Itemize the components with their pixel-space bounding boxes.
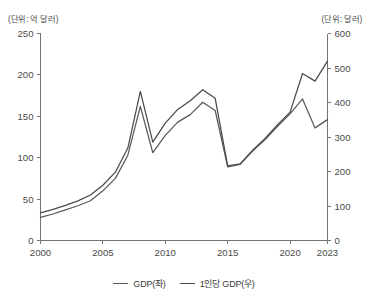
series-line-gdp: [41, 99, 328, 217]
right-axis-tick-label: 600: [335, 28, 351, 39]
x-axis-tick-label: 2010: [155, 247, 176, 258]
x-axis-tick-label: 2023: [317, 247, 338, 258]
left-axis-tick-label: 50: [23, 194, 34, 205]
data-series: [41, 61, 328, 217]
legend-label: GDP(좌): [133, 277, 165, 290]
left-axis-tick-label: 150: [17, 111, 33, 122]
gdp-line-chart: (단위: 억 달러) (단위: 달러) 050100150200250 0100…: [0, 0, 368, 298]
chart-legend: GDP(좌)1인당 GDP(우): [0, 277, 368, 290]
left-axis: 050100150200250: [17, 28, 40, 246]
x-axis-tick-label: 2020: [279, 247, 300, 258]
plot-area: 050100150200250 0100200300400500600 2000…: [0, 0, 368, 298]
left-axis-tick-label: 100: [17, 152, 33, 163]
left-axis-tick-label: 0: [28, 235, 33, 246]
right-axis-tick-label: 100: [335, 201, 351, 212]
right-axis-tick-label: 500: [335, 63, 351, 74]
right-axis-tick-label: 300: [335, 132, 351, 143]
legend-line-icon: [180, 283, 195, 284]
right-axis-tick-label: 0: [335, 235, 340, 246]
x-axis-tick-label: 2005: [92, 247, 113, 258]
x-axis: 200020052010201520202023: [30, 241, 338, 258]
x-axis-tick-label: 2000: [30, 247, 51, 258]
legend-label: 1인당 GDP(우): [200, 277, 255, 290]
left-axis-tick-label: 250: [17, 28, 33, 39]
series-line-gdp-per-capita: [41, 61, 328, 213]
legend-line-icon: [113, 283, 128, 284]
legend-item-1[interactable]: 1인당 GDP(우): [180, 277, 255, 290]
legend-item-0[interactable]: GDP(좌): [113, 277, 165, 290]
x-axis-tick-label: 2015: [217, 247, 238, 258]
left-axis-tick-label: 200: [17, 69, 33, 80]
right-axis: 0100200300400500600: [328, 28, 351, 246]
right-axis-tick-label: 400: [335, 97, 351, 108]
right-axis-tick-label: 200: [335, 166, 351, 177]
